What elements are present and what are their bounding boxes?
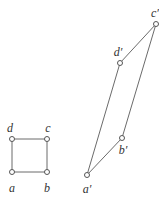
vertex-b-prime-icon xyxy=(120,136,125,141)
square-abcd xyxy=(12,139,47,172)
vertex-b-icon xyxy=(45,170,50,175)
label-d-prime: d′ xyxy=(114,45,123,59)
label-a-prime: a′ xyxy=(83,182,92,196)
label-d: d xyxy=(7,121,14,135)
vertex-a-prime-icon xyxy=(85,173,90,178)
label-c-prime: c′ xyxy=(151,6,159,20)
label-b-prime: b′ xyxy=(119,143,128,157)
edge-b-prime-c-prime xyxy=(122,24,156,138)
label-a: a xyxy=(9,181,15,195)
vertex-c-prime-icon xyxy=(154,22,159,27)
label-c: c xyxy=(45,121,51,135)
vertex-c-icon xyxy=(45,137,50,142)
vertex-d-icon xyxy=(10,137,15,142)
diagram-canvas: a b c d a′ b′ c′ d′ xyxy=(0,0,159,203)
label-b: b xyxy=(44,181,50,195)
vertex-d-prime-icon xyxy=(118,61,123,66)
vertex-a-icon xyxy=(10,170,15,175)
